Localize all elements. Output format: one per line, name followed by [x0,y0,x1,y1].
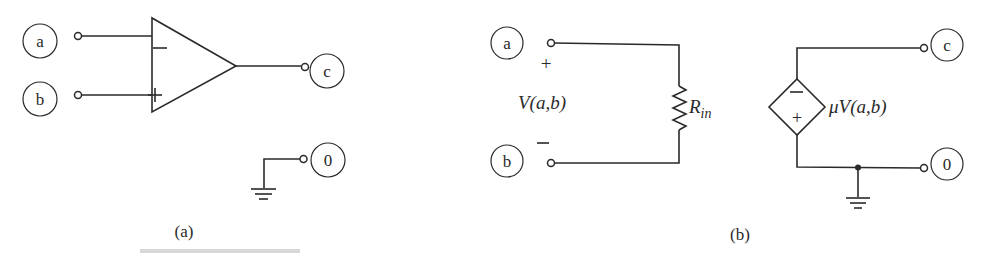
resistor-rin [673,86,686,130]
caption-a: (a) [175,222,194,241]
terminal-0-b [921,165,928,172]
node-label-0: 0 [311,143,345,177]
node-label-c: c [310,54,344,88]
opamp-triangle [152,18,236,112]
terminal-b [75,92,82,99]
caption-b: (b) [730,225,750,244]
input-voltage-label: V(a,b) [518,92,566,114]
wire-a-to-resistor [555,43,680,86]
svg-text:b: b [36,90,45,109]
ground-icon-b [846,198,870,208]
terminal-a-b [548,40,555,47]
resistor-label: Rin [688,96,712,121]
terminal-0 [300,156,307,163]
wire-ground [264,159,300,188]
wire-resistor-to-b [555,130,680,163]
clipped-caption-strip [140,249,300,253]
terminal-c [302,64,309,71]
wire-source-to-ground [797,135,920,168]
node-label-0-b: 0 [931,148,963,180]
panel-a: a b c 0 [23,18,345,241]
wire-source-to-c [797,48,920,79]
ground-icon [251,189,276,199]
panel-b: a Rin b + V(a,b) + μV(a,b) [491,27,963,244]
svg-text:a: a [36,32,44,51]
node-label-b: b [23,82,57,116]
svg-text:a: a [503,34,511,53]
terminal-c-b [921,45,928,52]
svg-text:c: c [943,36,951,55]
node-label-c-b: c [931,29,963,61]
svg-text:0: 0 [943,155,952,174]
terminal-b-b [548,160,555,167]
opamp-plus-sign [148,88,162,102]
node-label-b-b: b [491,145,523,177]
svg-text:0: 0 [324,151,333,170]
node-label-a-b: a [491,27,523,59]
svg-text:b: b [503,152,512,171]
input-plus-sign: + [541,53,552,74]
opamp-model-figure: a b c 0 [0,0,981,253]
node-label-a: a [23,24,57,58]
source-gain-label: μV(a,b) [828,96,887,118]
svg-text:c: c [323,62,331,81]
terminal-a [75,33,82,40]
source-plus-sign: + [792,108,802,128]
